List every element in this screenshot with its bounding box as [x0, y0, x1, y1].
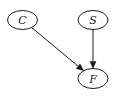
edge-line	[32, 28, 79, 67]
node-label: S	[89, 14, 97, 27]
node-c: C	[8, 11, 38, 30]
node-s: S	[78, 11, 108, 30]
arrowhead-icon	[90, 62, 96, 69]
node-f: F	[78, 69, 108, 89]
edge-s-to-f	[90, 30, 96, 69]
node-label: C	[18, 14, 27, 27]
node-label: F	[88, 73, 97, 86]
causal-diagram: CSF	[0, 0, 121, 97]
edge-c-to-f	[32, 28, 84, 71]
edges-group	[32, 28, 96, 71]
